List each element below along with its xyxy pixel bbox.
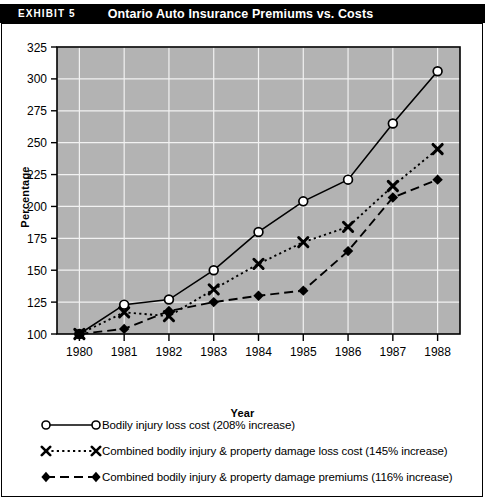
x-axis-tick-label: 1983: [200, 345, 227, 359]
data-point-open-circle: [433, 67, 442, 76]
line-chart: 1001251501752002252502753003251980198119…: [0, 23, 485, 423]
legend-marker-open-circle: [40, 417, 102, 433]
legend-label: Bodily injury loss cost (208% increase): [102, 419, 295, 431]
legend-item: Combined bodily injury & property damage…: [40, 438, 470, 464]
data-point-open-circle: [209, 266, 218, 275]
exhibit-figure: EXHIBIT 5 Ontario Auto Insurance Premium…: [0, 0, 485, 501]
legend-marker-x-cross: [40, 443, 102, 459]
data-point-open-circle: [254, 228, 263, 237]
data-point-open-circle: [388, 119, 397, 128]
legend-label: Combined bodily injury & property damage…: [102, 471, 453, 483]
y-axis-tick-label: 325: [27, 41, 47, 55]
x-axis-tick-label: 1985: [290, 345, 317, 359]
x-axis-tick-label: 1988: [424, 345, 451, 359]
exhibit-title-bar: EXHIBIT 5 Ontario Auto Insurance Premium…: [0, 4, 485, 23]
legend-marker-filled-diamond: [40, 469, 102, 485]
chart-legend: Bodily injury loss cost (208% increase) …: [40, 412, 470, 490]
data-point-open-circle: [299, 197, 308, 206]
y-axis-tick-label: 100: [27, 328, 47, 342]
y-axis-tick-label: 275: [27, 104, 47, 118]
data-point-open-circle: [165, 295, 174, 304]
legend-label: Combined bodily injury & property damage…: [102, 445, 448, 457]
y-axis-tick-label: 125: [27, 296, 47, 310]
y-axis-tick-label: 300: [27, 72, 47, 86]
exhibit-title-text: Ontario Auto Insurance Premiums vs. Cost…: [108, 7, 374, 21]
y-axis-title: Percentage: [19, 166, 31, 227]
data-point-open-circle: [344, 175, 353, 184]
exhibit-number-label: EXHIBIT 5: [18, 8, 76, 19]
x-axis-tick-label: 1986: [335, 345, 362, 359]
x-axis-tick-label: 1987: [379, 345, 406, 359]
y-axis-tick-label: 175: [27, 232, 47, 246]
x-axis-tick-label: 1982: [156, 345, 183, 359]
x-axis-tick-label: 1984: [245, 345, 272, 359]
x-axis-tick-label: 1981: [111, 345, 138, 359]
y-axis-tick-label: 250: [27, 136, 47, 150]
legend-item: Bodily injury loss cost (208% increase): [40, 412, 470, 438]
legend-item: Combined bodily injury & property damage…: [40, 464, 470, 490]
y-axis-tick-label: 150: [27, 264, 47, 278]
x-axis-tick-label: 1980: [66, 345, 93, 359]
